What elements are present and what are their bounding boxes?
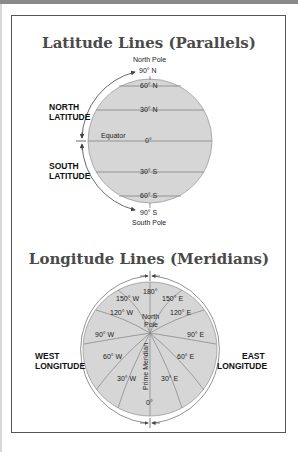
latitude-title: Latitude Lines (Parallels): [0, 34, 298, 52]
lon-120e-label: 120° E: [170, 309, 191, 316]
south-pole-label: South Pole: [132, 219, 166, 226]
lat-90n-label: 90° N: [139, 67, 157, 74]
north-pole-label: North Pole: [133, 56, 166, 63]
lat-30s-label: 30° S: [140, 168, 157, 175]
lon-180-label: 180°: [143, 288, 157, 295]
north-pole-label-line2: Pole: [144, 321, 158, 328]
lat-60n-label: 60° N: [140, 82, 158, 89]
longitude-title: Longitude Lines (Meridians): [0, 250, 298, 268]
south-latitude-label-line1: SOUTH: [49, 161, 79, 171]
lon-0-label: 0°: [146, 399, 153, 406]
north-latitude-label-line2: LATITUDE: [49, 112, 90, 122]
equator-label: Equator: [101, 132, 126, 139]
north-latitude-label-line1: NORTH: [49, 102, 79, 112]
west-longitude-label-line1: WEST: [35, 351, 60, 361]
lon-150w-label: 150° W: [116, 295, 139, 302]
east-longitude-label-line1: EAST: [242, 351, 265, 361]
lon-30w-label: 30° W: [117, 375, 136, 382]
north-pole-label-line1: North: [142, 313, 159, 320]
east-longitude-label-line2: LONGITUDE: [217, 361, 267, 371]
lon-30e-label: 30° E: [161, 375, 178, 382]
lat-0-label: 0°: [145, 137, 152, 144]
lat-90s-label: 90° S: [140, 209, 157, 216]
west-longitude-label-line2: LONGITUDE: [35, 361, 85, 371]
lat-30n-label: 30° N: [140, 106, 158, 113]
lon-90e-label: 90° E: [187, 331, 204, 338]
lon-90w-label: 90° W: [95, 331, 114, 338]
lon-60e-label: 60° E: [177, 353, 194, 360]
prime-meridian-label: Prime Meridian: [142, 343, 149, 390]
lon-150e-label: 150° E: [162, 295, 183, 302]
lat-60s-label: 60° S: [140, 192, 157, 199]
south-latitude-label-line2: LATITUDE: [49, 171, 90, 181]
latitude-globe: [76, 72, 212, 210]
lon-120w-label: 120° W: [110, 309, 133, 316]
lon-60w-label: 60° W: [103, 353, 122, 360]
